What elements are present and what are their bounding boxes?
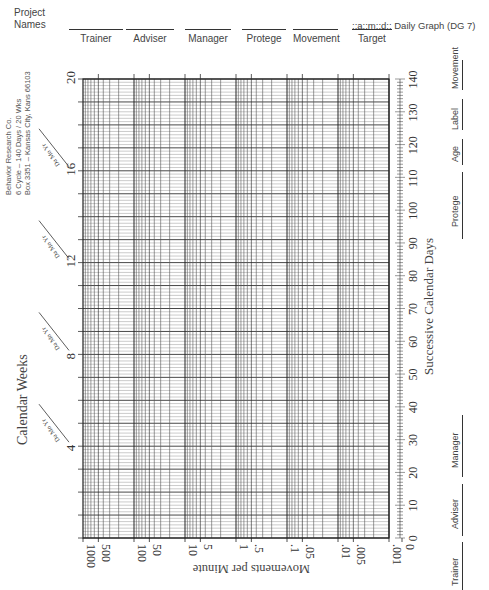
right-slot-line-trainer (462, 542, 463, 590)
day-tick-label: 110 (406, 169, 420, 187)
day-tick-label: 0 (406, 535, 420, 541)
day-tick-label: 140 (406, 71, 420, 89)
right-slot-trainer[interactable]: Trainer (450, 558, 460, 586)
y-tick-label: .001 (390, 544, 404, 565)
date-stamp-label: Da Mo Yr (39, 417, 60, 443)
right-slot-line-manager (462, 415, 463, 477)
right-slot-line-movement (462, 60, 463, 90)
right-slot-adviser[interactable]: Adviser (450, 499, 460, 529)
day-tick-label: 60 (406, 336, 420, 348)
right-slot-protege[interactable]: Protege (450, 195, 460, 227)
week-tick-label: 12 (63, 255, 78, 268)
week-tick-label: 16 (63, 162, 78, 176)
y-tick-label: 500 (99, 544, 113, 562)
day-tick-label: 20 (406, 467, 420, 479)
y-tick-label: .01 (339, 544, 353, 559)
day-tick-label: 10 (406, 500, 420, 512)
week-tick-label: 4 (63, 444, 78, 451)
x-axis-title: Successive Calendar Days (421, 238, 437, 375)
chart-grid[interactable]: 1000500100501051.5.1.05.01.005.00104Da M… (0, 0, 489, 590)
right-slot-label[interactable]: Label (450, 108, 460, 130)
y-tick-label: 10 (186, 544, 200, 556)
week-tick-label: 8 (63, 353, 78, 360)
day-tick-label: 40 (406, 401, 420, 413)
day-tick-label: 30 (406, 434, 420, 446)
right-slot-age[interactable]: Age (450, 146, 460, 162)
right-slot-line-adviser (462, 484, 463, 536)
y-tick-label: .05 (303, 544, 317, 559)
week-tick-label: 20 (63, 71, 78, 84)
y-tick-label: .5 (252, 544, 266, 553)
day-tick-label: 70 (406, 303, 420, 315)
y-tick-label: 100 (135, 544, 149, 562)
day-tick-label: 90 (406, 237, 420, 249)
date-stamp-label: Da Mo Yr (39, 142, 60, 168)
right-slot-line-label (462, 99, 463, 130)
day-tick-label: 80 (406, 270, 420, 282)
right-slot-movement[interactable]: Movement (450, 47, 460, 89)
y-tick-label: 1 (237, 544, 251, 550)
right-slot-line-protege (462, 172, 463, 239)
y-tick-label: .005 (354, 544, 368, 565)
y-tick-label: 0 (403, 544, 417, 550)
right-slot-manager[interactable]: Manager (450, 432, 460, 468)
y-tick-label: 1000 (84, 544, 98, 568)
date-stamp-label: Da Mo Yr (39, 234, 60, 260)
day-tick-label: 50 (406, 368, 420, 380)
y-axis-title: Movements per Minute (193, 561, 310, 576)
y-tick-label: .1 (288, 544, 302, 553)
day-tick-label: 120 (406, 136, 420, 154)
y-tick-label: 50 (150, 544, 164, 556)
y-tick-label: 5 (201, 544, 215, 550)
date-stamp-label: Da Mo Yr (39, 325, 60, 351)
right-slot-line-age (462, 139, 463, 165)
day-tick-label: 130 (406, 103, 420, 121)
day-tick-label: 100 (406, 202, 420, 220)
